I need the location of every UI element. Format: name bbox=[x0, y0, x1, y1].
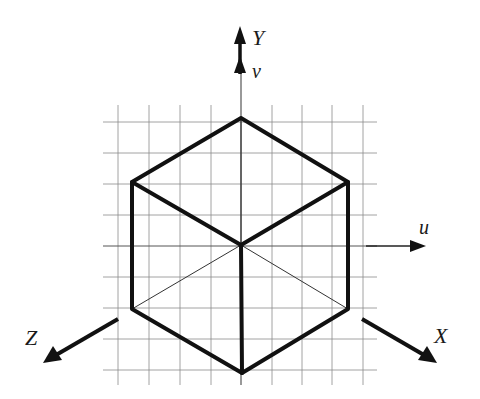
z-axis-arrow bbox=[43, 319, 118, 363]
cube-edge-upper-left bbox=[132, 182, 241, 245]
z-axis-label: Z bbox=[25, 325, 38, 350]
v-arrowhead-icon bbox=[234, 56, 246, 73]
x-axis-arrow bbox=[362, 319, 437, 363]
diagram-canvas: Y v u Z X bbox=[0, 0, 480, 399]
cube-edge-center-vertical bbox=[241, 245, 242, 373]
y-axis-arrow bbox=[234, 26, 246, 74]
u-axis-label: u bbox=[419, 216, 429, 238]
y-arrowhead-icon bbox=[234, 26, 246, 44]
u-arrowhead-icon bbox=[410, 240, 426, 252]
y-axis-label: Y bbox=[252, 25, 267, 50]
v-axis-label: v bbox=[252, 60, 261, 82]
x-axis-label: X bbox=[433, 323, 449, 348]
isometric-cube-diagram: Y v u Z X bbox=[0, 0, 480, 399]
